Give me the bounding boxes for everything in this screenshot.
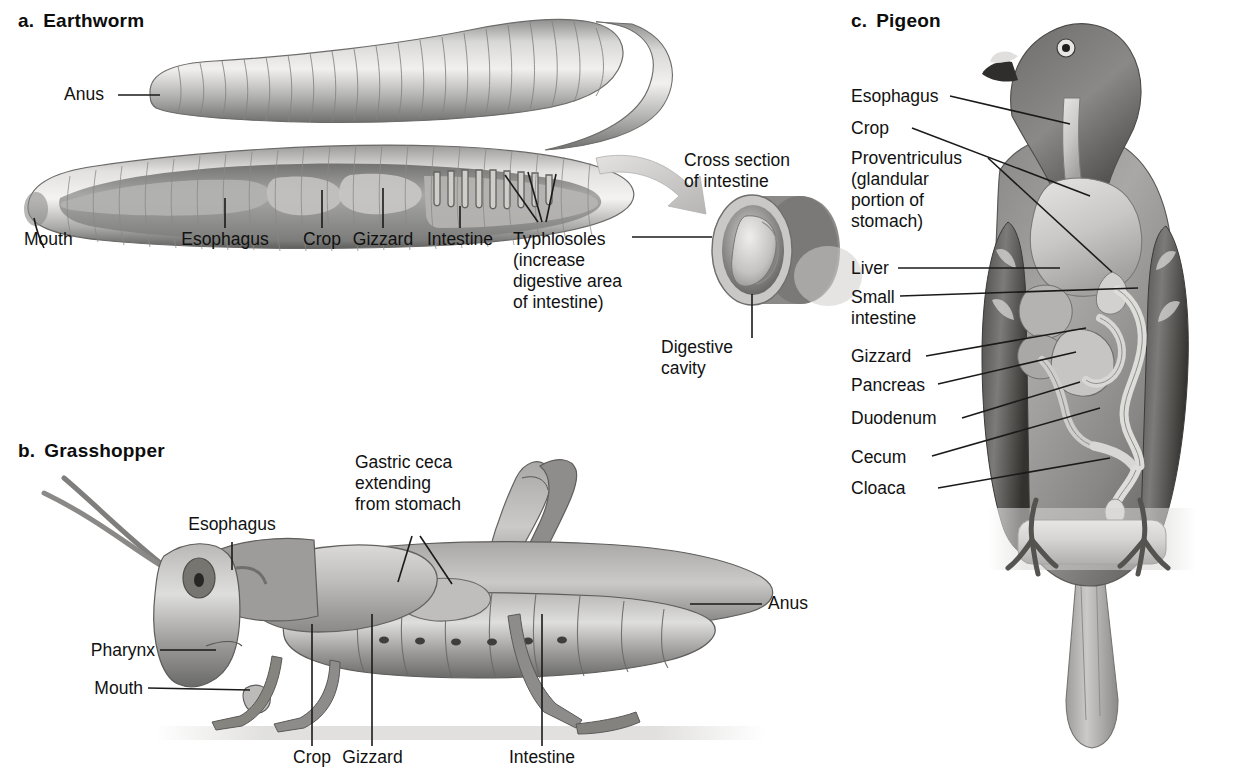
label-pg-liver: Liver [851,258,889,279]
small-intestine-organ [1118,290,1142,466]
label-gh-gizzard: Gizzard [330,747,415,768]
pronotum [209,539,318,621]
head [154,544,240,687]
proventriculus-organ [1096,272,1127,314]
label-pg-gizzard: Gizzard [851,346,911,367]
right-wing [1140,226,1188,554]
label-earthworm-esophagus: Esophagus [165,229,285,250]
duodenum-organ [1094,446,1136,470]
leader-pg-cloaca [938,458,1110,488]
label-earthworm-typhlosoles: Typhlosoles [513,229,605,250]
crop-organ [1030,178,1141,296]
leader-gh-mouth [148,688,250,690]
cloaca-organ [1105,499,1125,525]
label-pg-proventriculus-4: stomach) [851,211,923,232]
label-gh-anus: Anus [768,593,808,614]
hind-tibia [496,460,577,616]
eye [183,558,215,598]
label-typhlosoles-note-3: of intestine) [513,292,603,313]
esophagus-organ [1063,98,1082,186]
label-pg-duodenum: Duodenum [851,408,937,429]
leader-pg-cecum [932,408,1100,456]
panel-title-pigeon: c.Pigeon [851,10,941,32]
label-cross-section-1: Cross section [684,150,790,171]
leader-pg-small-intestine [900,288,1138,296]
panel-title-grasshopper: b.Grasshopper [18,440,165,462]
label-gh-intestine: Intestine [498,747,586,768]
intestine-cross-section [712,195,862,306]
liver-organ [1019,285,1072,338]
worm-esophagus-shape [60,180,270,216]
left-wing [982,222,1030,556]
wing-cover [278,542,772,633]
label-digestive-cavity-1: Digestive [661,337,733,358]
label-pg-pancreas: Pancreas [851,375,925,396]
cecum-organ [1112,470,1136,544]
illustration-layer [0,0,1245,774]
label-gastric-ceca-2: extending [355,473,431,494]
panel-letter-b: b. [18,440,35,461]
digestive-systems-figure: a.Earthworm Anus Mouth Esophagus Crop Gi… [0,0,1245,774]
label-digestive-cavity-2: cavity [661,358,706,379]
pigeon-head [1011,24,1141,206]
abdomen [283,593,715,678]
leader-pg-proventriculus [988,158,1112,272]
gastric-ceca-lobe-3 [323,559,391,595]
label-gastric-ceca-3: from stomach [355,494,461,515]
label-gh-esophagus: Esophagus [172,514,292,535]
label-earthworm-intestine: Intestine [418,229,502,250]
label-cross-section-2: of intestine [684,171,769,192]
spiracles [379,637,567,646]
grasshopper-leader-lines [148,536,762,746]
gizzard-organ [1051,329,1114,396]
panel-name-pigeon: Pigeon [876,10,941,31]
pigeon-body [994,134,1177,586]
leader-pg-duodenum [962,382,1080,418]
panel-name-earthworm: Earthworm [43,10,144,31]
label-gh-pharynx: Pharynx [50,640,155,661]
beak [982,62,1018,82]
label-typhlosoles-note-1: (increase [513,250,585,271]
leader-pg-pancreas [938,352,1076,384]
worm-intestine-shape [424,176,598,228]
pigeon-illustration [982,24,1196,748]
eye [1057,39,1075,57]
worm-upper-segment [150,19,623,122]
label-pg-proventriculus-3: portion of [851,190,924,211]
gastric-ceca-lobe-2 [398,578,490,621]
feet [1008,500,1168,574]
label-pg-cloaca: Cloaca [851,478,905,499]
label-pg-cecum: Cecum [851,447,906,468]
worm-fold [545,22,672,150]
earthworm-leader-lines [34,95,752,338]
label-pg-proventriculus: Proventriculus [851,148,962,169]
crop-sac [245,545,437,632]
tail [1066,556,1118,748]
label-pg-crop: Crop [851,118,889,139]
label-earthworm-anus: Anus [64,84,104,105]
cere [990,51,1018,62]
label-gh-mouth: Mouth [50,678,143,699]
label-gastric-ceca-1: Gastric ceca [355,452,452,473]
gastric-ceca-lobe-1 [340,570,430,614]
perch [1018,520,1166,564]
panel-title-earthworm: a.Earthworm [18,10,144,32]
label-typhlosoles-note-2: digestive area [513,271,622,292]
panel-letter-a: a. [18,10,34,31]
worm-crop-shape [267,177,342,216]
pancreas-organ [1042,360,1094,446]
label-earthworm-mouth: Mouth [24,229,73,250]
panel-name-grasshopper: Grasshopper [44,440,164,461]
label-pg-esophagus: Esophagus [851,86,939,107]
label-earthworm-gizzard: Gizzard [344,229,422,250]
panel-letter-c: c. [851,10,867,31]
label-pg-small-intestine-1: Small [851,287,895,308]
leader-pg-gizzard [926,328,1086,356]
label-pg-proventriculus-2: (glandular [851,169,929,190]
worm-gizzard-shape [339,174,422,215]
hind-femur [478,462,551,606]
label-pg-small-intestine-2: intestine [851,308,916,329]
worm-typhlosoles [434,170,552,209]
mouthparts [243,685,270,713]
leader-pg-esophagus [950,96,1070,124]
